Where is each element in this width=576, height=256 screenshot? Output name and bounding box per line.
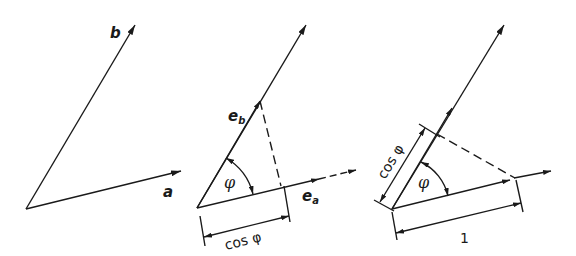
- panel-2: [197, 25, 356, 246]
- label-angle-phi: φ: [224, 173, 236, 192]
- label-cos-phi: cos φ: [374, 141, 407, 181]
- panel-3: [374, 25, 551, 240]
- dim-tick-left: [200, 216, 205, 246]
- label-unit-ea: ea: [302, 187, 319, 206]
- panel-1: [26, 25, 181, 209]
- label-cos-phi: cos φ: [223, 228, 263, 253]
- vector-a-arrow: [26, 171, 181, 209]
- dim-tick-left: [392, 212, 397, 240]
- projection-dashed-line: [437, 134, 515, 178]
- label-unit-eb: eb: [228, 107, 245, 126]
- label-angle-phi: φ: [418, 173, 430, 192]
- label-unit-length: 1: [460, 230, 469, 246]
- projection-dashed-line: [260, 101, 281, 186]
- dim-line-unit: [396, 203, 521, 233]
- vector-b-arrow: [26, 25, 135, 209]
- unit-vector-ea-arrow: [197, 179, 319, 208]
- dim-tick-bottom: [374, 200, 394, 211]
- vector-a-extension: [319, 170, 356, 179]
- dim-tick-top: [419, 124, 440, 137]
- label-vector-b: b: [110, 24, 121, 42]
- vector-projection-diagram: b a eb ea φ cos φ φ cos φ 1: [0, 0, 576, 256]
- label-vector-a: a: [163, 183, 173, 201]
- vector-a-extension: [514, 171, 551, 178]
- dim-tick-right: [516, 180, 523, 212]
- unit-a-arrow: [392, 180, 510, 209]
